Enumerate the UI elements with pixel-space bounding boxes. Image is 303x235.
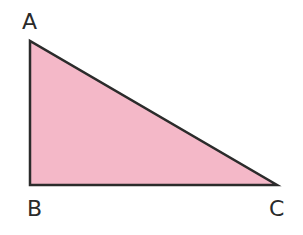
vertex-label-b: B xyxy=(27,198,42,220)
vertex-label-c: C xyxy=(269,198,284,220)
vertex-label-a: A xyxy=(22,11,37,33)
triangle-abc xyxy=(30,41,277,185)
triangle-diagram xyxy=(0,0,303,235)
